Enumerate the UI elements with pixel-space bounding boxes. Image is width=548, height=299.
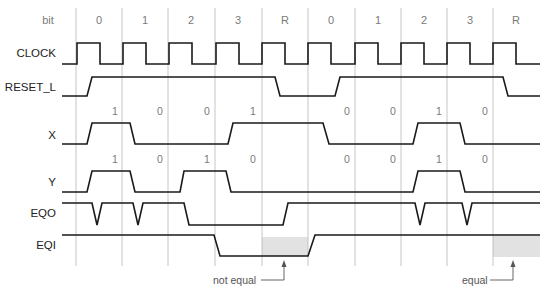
equal-shade [493,236,540,257]
bit-column-label: 0 [328,14,334,26]
bit-column-label: R [281,14,289,26]
equal-arrow-icon [490,266,513,280]
y-bit-value: 0 [390,153,396,165]
y-bit-value: 1 [436,153,442,165]
signal-label-y: Y [48,176,56,188]
x-bit-value: 1 [250,105,256,117]
y-bit-value: 0 [157,153,163,165]
not-equal-arrow-icon [261,266,284,280]
not-equal-annotation: not equal [213,274,256,286]
y-bit-value: 1 [204,153,210,165]
bit-header-label: bit [42,14,54,26]
signal-label-clock: CLOCK [16,47,56,59]
eqo-waveform [62,203,540,225]
x-bit-value: 0 [344,105,350,117]
equal-annotation: equal [462,274,488,286]
bit-column-label: 1 [375,14,381,26]
y-bit-value: 0 [482,153,488,165]
signal-label-eqi: EQI [36,239,56,251]
y-bit-value: 0 [344,153,350,165]
not-equal-arrowhead-icon [282,260,287,267]
bit-column-label: 2 [188,14,194,26]
x-bit-value: 1 [436,105,442,117]
x-bit-value: 1 [112,105,118,117]
bit-column-label: 2 [421,14,427,26]
equal-arrowhead-icon [511,260,516,267]
y-bit-value: 1 [112,153,118,165]
x-bit-value: 0 [157,105,163,117]
bit-column-label: R [512,14,520,26]
reset-l-waveform [62,77,540,96]
y-waveform [62,171,540,192]
clock-waveform [62,43,540,64]
timing-diagram: bit 0 1 2 3 R 0 1 2 3 R CLOCK RESET_L X … [0,0,548,299]
x-bit-value: 0 [204,105,210,117]
bit-column-label: 3 [235,14,241,26]
bit-column-label: 0 [96,14,102,26]
signal-label-eqo: EQO [30,207,56,219]
signal-label-x: X [48,129,56,141]
bit-column-label: 1 [142,14,148,26]
x-waveform [62,123,540,144]
not-equal-shade [262,237,308,256]
signal-label-reset: RESET_L [5,81,57,93]
y-bit-value: 0 [250,153,256,165]
bit-column-label: 3 [467,14,473,26]
x-bit-value: 0 [390,105,396,117]
x-bit-value: 0 [482,105,488,117]
